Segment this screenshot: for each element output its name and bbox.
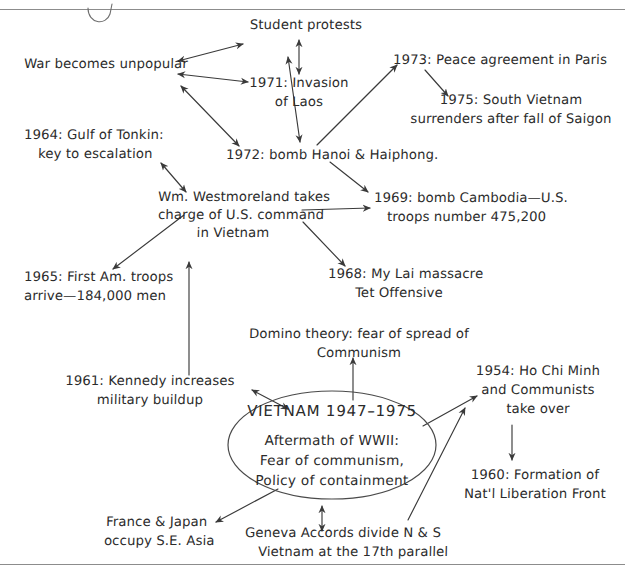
- node-student-protests: Student protests: [246, 16, 366, 35]
- node-westmoreland-line3: in Vietnam: [158, 224, 308, 243]
- page-rule-bottom: [0, 564, 625, 565]
- node-domino-line1: Domino theory: fear of spread of: [236, 325, 482, 344]
- node-hochiminh-line3: take over: [463, 400, 613, 419]
- node-hochiminh-line1: 1954: Ho Chi Minh: [463, 362, 613, 381]
- node-bomb-hanoi: 1972: bomb Hanoi & Haiphong.: [226, 146, 439, 165]
- node-first-troops-line1: 1965: First Am. troops: [24, 268, 174, 287]
- node-kennedy-line2: military buildup: [52, 391, 248, 410]
- node-war-unpopular: War becomes unpopular: [24, 55, 188, 74]
- node-tonkin-line1: 1964: Gulf of Tonkin:: [24, 126, 164, 145]
- node-mylai-line1: 1968: My Lai massacre: [328, 265, 484, 284]
- node-peace-paris: 1973: Peace agreement in Paris: [393, 51, 608, 70]
- node-domino-line2: Communism: [236, 344, 482, 363]
- node-kennedy-line1: 1961: Kennedy increases: [52, 372, 248, 391]
- node-france-japan-line2: occupy S.E. Asia: [104, 532, 215, 551]
- node-westmoreland-line2: charge of U.S. command: [158, 206, 308, 225]
- node-westmoreland-line1: Wm. Westmoreland takes: [158, 188, 308, 207]
- oval-heading: VIETNAM 1947–1975: [232, 400, 433, 423]
- node-hochiminh-line2: and Communists: [463, 381, 613, 400]
- node-nlf-line2: Nat'l Liberation Front: [452, 485, 618, 504]
- node-geneva-line1: Geneva Accords divide N & S: [245, 524, 441, 543]
- node-saigon-line1: 1975: South Vietnam: [400, 91, 622, 110]
- node-nlf-line1: 1960: Formation of: [452, 466, 618, 485]
- node-invasion-laos-line2: of Laos: [243, 93, 355, 112]
- node-geneva-line2: Vietnam at the 17th parallel: [258, 543, 449, 562]
- node-first-troops-line2: arrive—184,000 men: [24, 287, 167, 306]
- node-invasion-laos-line1: 1971: Invasion: [243, 74, 355, 93]
- concept-map-page: War becomes unpopular Student protests 1…: [0, 0, 625, 582]
- node-france-japan-line1: France & Japan: [106, 513, 208, 532]
- node-cambodia-line2: troops number 475,200: [387, 208, 547, 227]
- node-tonkin-line2: key to escalation: [38, 145, 153, 164]
- node-mylai-line2: Tet Offensive: [355, 284, 443, 303]
- node-cambodia-line1: 1969: bomb Cambodia—U.S.: [374, 189, 568, 208]
- oval-body-line3: Policy of containment: [232, 470, 433, 490]
- page-rule-top: [0, 9, 625, 10]
- oval-body-line1: Aftermath of WWII:: [232, 430, 433, 450]
- node-saigon-line2: surrenders after fall of Saigon: [400, 110, 622, 129]
- oval-body-line2: Fear of communism,: [232, 450, 433, 470]
